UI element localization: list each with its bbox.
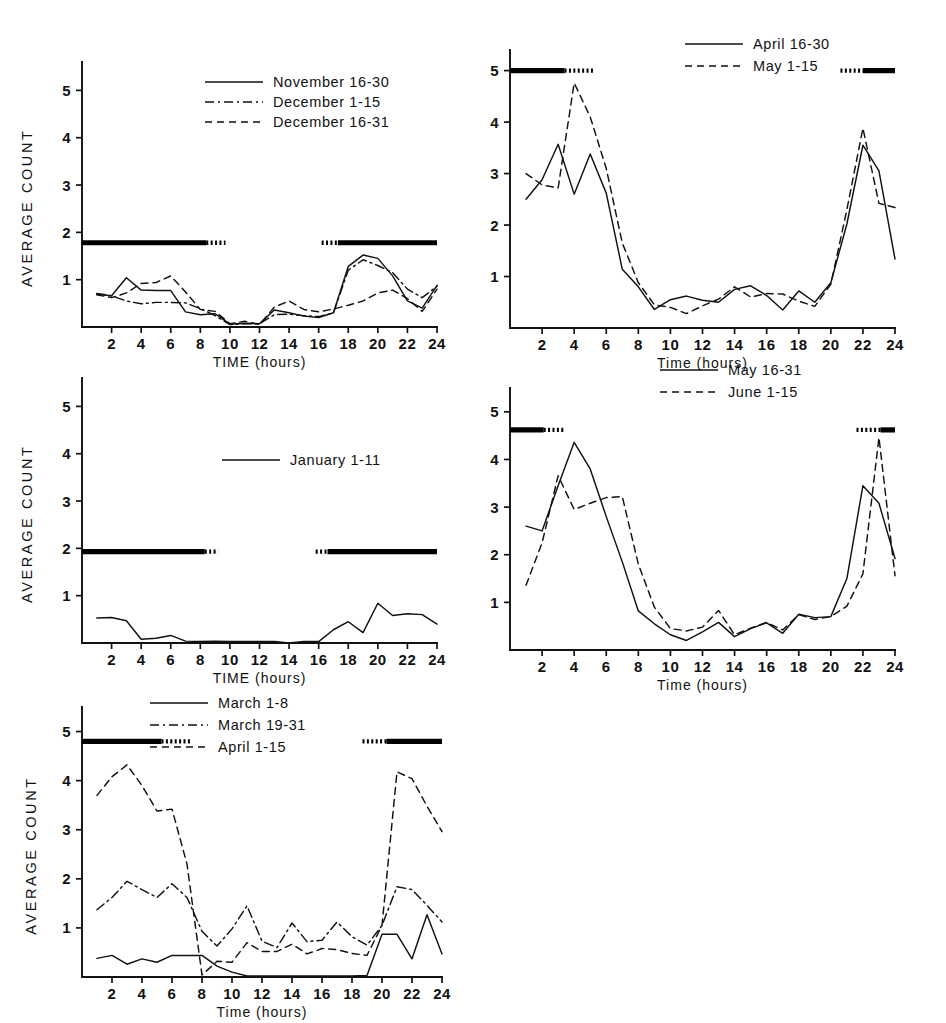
x-tick-label: 18	[790, 336, 808, 353]
legend-label: June 1-15	[728, 384, 798, 400]
y-axis-ticks: 12345	[62, 398, 82, 604]
x-tick-label: 22	[854, 658, 872, 675]
x-axis-title: TIME (hours)	[213, 670, 307, 686]
legend-label: December 1-15	[273, 94, 381, 110]
y-tick-label: 2	[490, 217, 499, 234]
x-tick-label: 16	[310, 651, 328, 668]
x-tick-label: 24	[886, 336, 904, 353]
legend-label: May 1-15	[753, 58, 818, 74]
y-axis-ticks: 12345	[62, 723, 82, 936]
x-axis-title: Time (hours)	[657, 677, 748, 693]
x-tick-label: 16	[758, 336, 776, 353]
legend-label: January 1-11	[290, 452, 381, 468]
chart-panel-may-june: 1234524681012141618202224Time (hours)May…	[470, 360, 940, 680]
x-axis-ticks: 24681012141618202224	[538, 650, 904, 675]
axes	[510, 388, 895, 650]
x-tick-label: 6	[166, 335, 175, 352]
y-tick-label: 4	[490, 451, 499, 468]
data-series-group	[97, 603, 437, 643]
x-tick-label: 10	[221, 651, 239, 668]
x-tick-label: 16	[310, 335, 328, 352]
y-tick-label: 5	[62, 723, 71, 740]
y-tick-label: 3	[62, 177, 71, 194]
legend-label: March 19-31	[218, 717, 306, 733]
x-tick-label: 4	[570, 336, 579, 353]
y-tick-label: 4	[490, 114, 499, 131]
legend: January 1-11	[222, 452, 381, 468]
x-tick-label: 2	[538, 658, 547, 675]
y-axis-title: AVERAGE COUNT	[19, 129, 35, 287]
y-axis-ticks: 12345	[490, 403, 510, 611]
x-tick-label: 2	[107, 651, 116, 668]
x-tick-label: 14	[280, 651, 298, 668]
x-tick-label: 8	[198, 985, 207, 1002]
x-tick-label: 20	[369, 651, 387, 668]
legend-label: April 1-15	[218, 739, 286, 755]
x-tick-label: 20	[822, 658, 840, 675]
legend-label: March 1-8	[218, 695, 289, 711]
axes	[510, 50, 895, 328]
x-tick-label: 2	[108, 985, 117, 1002]
x-tick-label: 20	[822, 336, 840, 353]
y-axis-ticks: 12345	[62, 82, 82, 288]
y-tick-label: 4	[62, 772, 71, 789]
series-line	[526, 83, 895, 314]
x-tick-label: 8	[634, 336, 643, 353]
x-axis-ticks: 24681012141618202224	[107, 643, 446, 668]
x-tick-label: 18	[790, 658, 808, 675]
y-tick-label: 3	[62, 821, 71, 838]
y-tick-label: 5	[490, 62, 499, 79]
legend: November 16-30December 1-15December 16-3…	[205, 74, 389, 130]
x-tick-label: 6	[602, 336, 611, 353]
y-tick-label: 1	[62, 271, 71, 288]
x-tick-label: 4	[570, 658, 579, 675]
x-tick-label: 2	[538, 336, 547, 353]
y-tick-label: 1	[490, 594, 499, 611]
chart-panel-march-april: 1234524681012141618202224Time (hours)AVE…	[10, 685, 480, 1015]
y-tick-label: 2	[62, 224, 71, 241]
data-series-group	[97, 255, 437, 325]
x-axis-title: Time (hours)	[217, 1004, 308, 1020]
x-axis-ticks: 24681012141618202224	[538, 328, 904, 353]
figure-canvas: 1234524681012141618202224TIME (hours)AVE…	[0, 0, 946, 1023]
legend-label: May 16-31	[728, 362, 802, 378]
x-tick-label: 14	[726, 336, 744, 353]
y-axis-ticks: 12345	[490, 62, 510, 285]
data-series-group	[526, 438, 895, 641]
y-tick-label: 5	[490, 403, 499, 420]
x-tick-label: 18	[339, 335, 357, 352]
series-line	[97, 603, 437, 643]
x-axis-ticks: 24681012141618202224	[107, 327, 446, 352]
x-tick-label: 14	[726, 658, 744, 675]
x-tick-label: 12	[251, 335, 269, 352]
x-tick-label: 6	[168, 985, 177, 1002]
y-tick-label: 3	[490, 165, 499, 182]
x-tick-label: 10	[662, 658, 680, 675]
x-tick-label: 8	[196, 651, 205, 668]
chart-panel-nov-dec: 1234524681012141618202224TIME (hours)AVE…	[10, 40, 465, 360]
data-series-group	[526, 83, 895, 314]
x-tick-label: 20	[373, 985, 391, 1002]
x-tick-label: 18	[343, 985, 361, 1002]
y-tick-label: 4	[62, 445, 71, 462]
x-tick-label: 6	[166, 651, 175, 668]
x-tick-label: 16	[758, 658, 776, 675]
x-tick-label: 4	[137, 335, 146, 352]
data-series-group	[97, 765, 442, 976]
y-tick-label: 3	[490, 499, 499, 516]
x-tick-label: 24	[428, 335, 446, 352]
series-line	[526, 144, 895, 310]
x-tick-label: 2	[107, 335, 116, 352]
x-axis-ticks: 24681012141618202224	[108, 977, 451, 1002]
x-tick-label: 4	[138, 985, 147, 1002]
y-tick-label: 2	[62, 870, 71, 887]
legend: April 16-30May 1-15	[685, 36, 830, 74]
x-tick-label: 22	[399, 335, 417, 352]
y-tick-label: 1	[490, 268, 499, 285]
y-tick-label: 3	[62, 493, 71, 510]
x-tick-label: 8	[196, 335, 205, 352]
y-axis-title: AVERAGE COUNT	[19, 445, 35, 603]
y-axis-title: AVERAGE COUNT	[23, 776, 39, 934]
x-tick-label: 12	[253, 985, 271, 1002]
x-tick-label: 12	[694, 658, 712, 675]
